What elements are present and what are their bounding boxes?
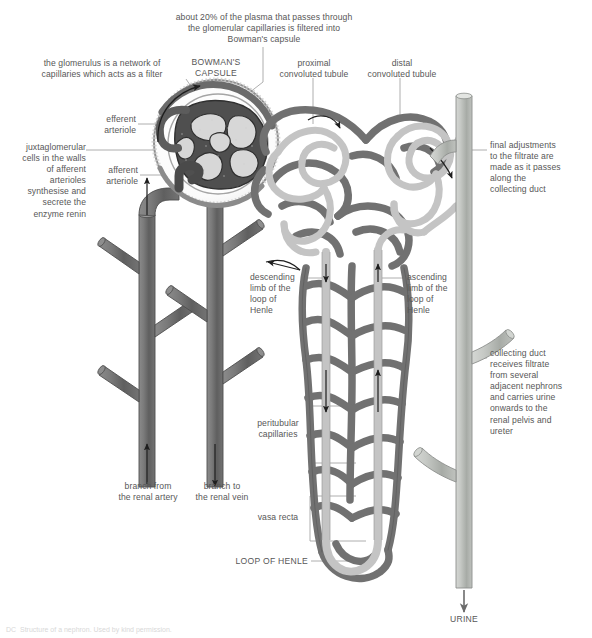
bowmans-capsule-label: BOWMAN'S CAPSULE [180, 57, 252, 79]
loop-of-henle-label: LOOP OF HENLE [206, 556, 308, 567]
peritubular-capillary-network [255, 110, 448, 579]
filtration-note: about 20% of the plasma that passes thro… [148, 12, 380, 45]
nephron-artwork [0, 0, 592, 638]
proximal-convoluted-tubule-label: proximal convoluted tubule [262, 58, 366, 80]
nephron-tubule [269, 126, 458, 572]
bowmans-capsule [154, 80, 278, 205]
branch-from-renal-artery-label: branch from the renal artery [108, 481, 188, 503]
urine-label: URINE [440, 614, 488, 625]
nephron-diagram: about 20% of the plasma that passes thro… [0, 0, 592, 638]
collecting-duct-note-2: collecting duct receives filtrate from s… [490, 348, 590, 437]
vasa-recta-label: vasa recta [246, 512, 310, 523]
glomerulus-note: the glomerulus is a network of capillari… [18, 58, 186, 80]
figure-footnote: DC Structure of a nephron. Used by kind … [6, 626, 172, 633]
collecting-duct-note: final adjustments to the filtrate are ma… [490, 140, 590, 195]
juxtaglomerular-note: juxtaglomerular cells in the walls of af… [4, 142, 86, 220]
branch-to-renal-vein-label: branch to the renal vein [186, 481, 258, 503]
afferent-arteriole-label: afferent arteriole [92, 165, 138, 187]
ascending-limb-label: ascending limb of the loop of Henle [407, 272, 465, 316]
renal-artery-branch [97, 178, 198, 487]
renal-vein-branch [165, 179, 266, 487]
descending-limb-label: descending limb of the loop of Henle [250, 272, 308, 316]
efferent-arteriole-label: efferent arteriole [58, 114, 136, 136]
distal-convoluted-tubule-label: distal convoluted tubule [352, 58, 452, 80]
peritubular-capillaries-label: peritubular capillaries [246, 418, 310, 440]
